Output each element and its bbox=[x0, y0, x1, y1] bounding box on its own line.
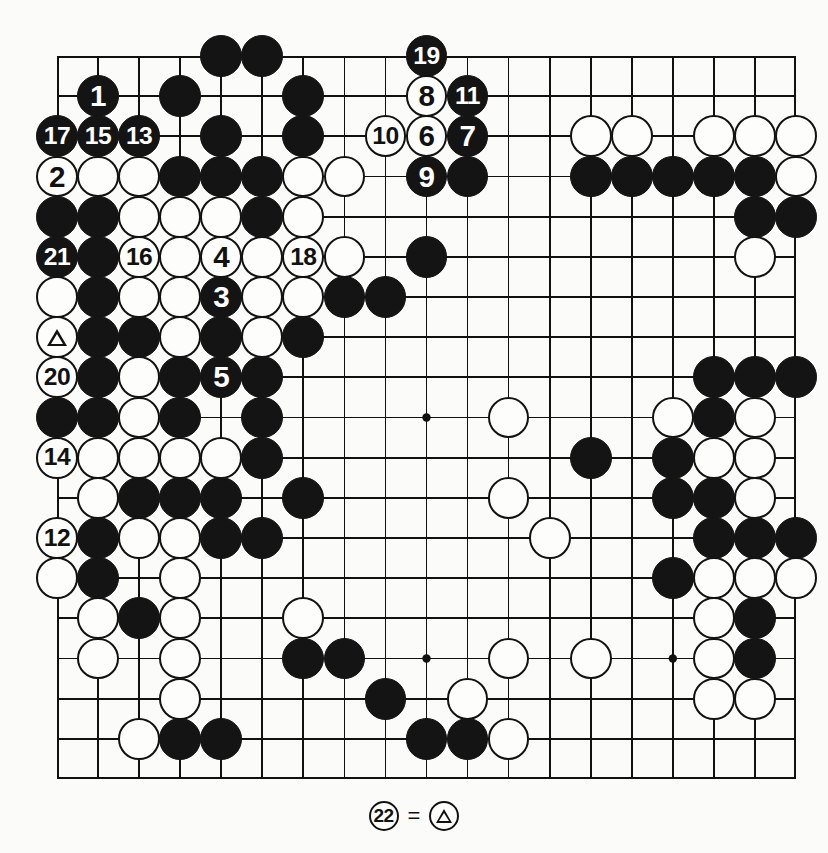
numbered-stone-black-5[interactable]: 5 bbox=[200, 356, 242, 398]
numbered-stone-black-21[interactable]: 21 bbox=[36, 236, 78, 278]
stone-black[interactable] bbox=[611, 156, 653, 198]
stone-black[interactable] bbox=[693, 156, 735, 198]
numbered-stone-white-12[interactable]: 12 bbox=[36, 517, 78, 559]
stone-black[interactable] bbox=[200, 316, 242, 358]
stone-black[interactable] bbox=[77, 557, 119, 599]
stone-white[interactable] bbox=[734, 236, 776, 278]
stone-white[interactable] bbox=[241, 236, 283, 278]
stone-white[interactable] bbox=[488, 397, 530, 439]
stone-white[interactable] bbox=[282, 276, 324, 318]
stone-black[interactable] bbox=[365, 678, 407, 720]
stone-white[interactable] bbox=[241, 276, 283, 318]
stone-white[interactable] bbox=[159, 638, 201, 680]
stone-white[interactable] bbox=[118, 276, 160, 318]
stone-black[interactable] bbox=[734, 638, 776, 680]
stone-white[interactable] bbox=[775, 156, 817, 198]
stone-black[interactable] bbox=[200, 156, 242, 198]
stone-white[interactable] bbox=[693, 115, 735, 157]
stone-white[interactable] bbox=[282, 196, 324, 238]
stone-white[interactable] bbox=[241, 316, 283, 358]
stone-white[interactable] bbox=[488, 638, 530, 680]
numbered-stone-white-2[interactable]: 2 bbox=[36, 156, 78, 198]
stone-white[interactable] bbox=[693, 557, 735, 599]
stone-black[interactable] bbox=[652, 437, 694, 479]
stone-white[interactable] bbox=[77, 437, 119, 479]
numbered-stone-white-6[interactable]: 6 bbox=[406, 115, 448, 157]
stone-black[interactable] bbox=[159, 156, 201, 198]
stone-white[interactable] bbox=[447, 678, 489, 720]
stone-white[interactable] bbox=[529, 517, 571, 559]
stone-black[interactable] bbox=[159, 356, 201, 398]
stone-white[interactable] bbox=[159, 557, 201, 599]
stone-white[interactable] bbox=[118, 718, 160, 760]
stone-white[interactable] bbox=[611, 115, 653, 157]
stone-black[interactable] bbox=[324, 276, 366, 318]
stone-black[interactable] bbox=[693, 477, 735, 519]
stone-white[interactable] bbox=[118, 196, 160, 238]
stone-black[interactable] bbox=[734, 196, 776, 238]
stone-white[interactable] bbox=[734, 678, 776, 720]
numbered-stone-black-13[interactable]: 13 bbox=[118, 115, 160, 157]
stone-black[interactable] bbox=[775, 196, 817, 238]
stone-white[interactable] bbox=[693, 678, 735, 720]
stone-white[interactable] bbox=[775, 115, 817, 157]
numbered-stone-black-11[interactable]: 11 bbox=[447, 75, 489, 117]
numbered-stone-black-3[interactable]: 3 bbox=[200, 276, 242, 318]
stone-black[interactable] bbox=[652, 557, 694, 599]
stone-black[interactable] bbox=[406, 718, 448, 760]
stone-black[interactable] bbox=[652, 156, 694, 198]
stone-white[interactable] bbox=[118, 356, 160, 398]
stone-white[interactable] bbox=[118, 397, 160, 439]
stone-black[interactable] bbox=[775, 356, 817, 398]
stone-black[interactable] bbox=[693, 517, 735, 559]
stone-white[interactable] bbox=[118, 517, 160, 559]
stone-black[interactable] bbox=[241, 397, 283, 439]
stone-white[interactable] bbox=[734, 557, 776, 599]
stone-black[interactable] bbox=[241, 196, 283, 238]
stone-black[interactable] bbox=[282, 638, 324, 680]
stone-white[interactable] bbox=[324, 236, 366, 278]
numbered-stone-white-16[interactable]: 16 bbox=[118, 236, 160, 278]
stone-black[interactable] bbox=[118, 316, 160, 358]
stone-white[interactable] bbox=[734, 397, 776, 439]
stone-white[interactable] bbox=[36, 316, 78, 358]
numbered-stone-black-7[interactable]: 7 bbox=[447, 115, 489, 157]
stone-black[interactable] bbox=[159, 397, 201, 439]
stone-white[interactable] bbox=[693, 597, 735, 639]
stone-white[interactable] bbox=[734, 477, 776, 519]
stone-white[interactable] bbox=[734, 437, 776, 479]
numbered-stone-white-14[interactable]: 14 bbox=[36, 437, 78, 479]
stone-black[interactable] bbox=[734, 156, 776, 198]
stone-black[interactable] bbox=[159, 718, 201, 760]
stone-white[interactable] bbox=[570, 115, 612, 157]
stone-white[interactable] bbox=[118, 156, 160, 198]
stone-white[interactable] bbox=[159, 437, 201, 479]
stone-black[interactable] bbox=[365, 276, 407, 318]
stone-white[interactable] bbox=[77, 477, 119, 519]
stone-black[interactable] bbox=[693, 397, 735, 439]
stone-white[interactable] bbox=[488, 477, 530, 519]
stone-black[interactable] bbox=[447, 718, 489, 760]
numbered-stone-white-10[interactable]: 10 bbox=[365, 115, 407, 157]
stone-white[interactable] bbox=[36, 276, 78, 318]
stone-white[interactable] bbox=[118, 437, 160, 479]
stone-white[interactable] bbox=[77, 156, 119, 198]
stone-black[interactable] bbox=[159, 75, 201, 117]
stone-black[interactable] bbox=[36, 397, 78, 439]
stone-black[interactable] bbox=[282, 75, 324, 117]
stone-black[interactable] bbox=[36, 196, 78, 238]
stone-white[interactable] bbox=[570, 638, 612, 680]
stone-black[interactable] bbox=[693, 356, 735, 398]
stone-white[interactable] bbox=[693, 437, 735, 479]
stone-black[interactable] bbox=[200, 115, 242, 157]
stone-black[interactable] bbox=[241, 517, 283, 559]
stone-white[interactable] bbox=[200, 196, 242, 238]
stone-black[interactable] bbox=[159, 477, 201, 519]
numbered-stone-white-18[interactable]: 18 bbox=[282, 236, 324, 278]
stone-white[interactable] bbox=[693, 638, 735, 680]
stone-black[interactable] bbox=[282, 316, 324, 358]
stone-black[interactable] bbox=[241, 35, 283, 77]
stone-black[interactable] bbox=[77, 397, 119, 439]
stone-black[interactable] bbox=[77, 196, 119, 238]
stone-white[interactable] bbox=[159, 236, 201, 278]
